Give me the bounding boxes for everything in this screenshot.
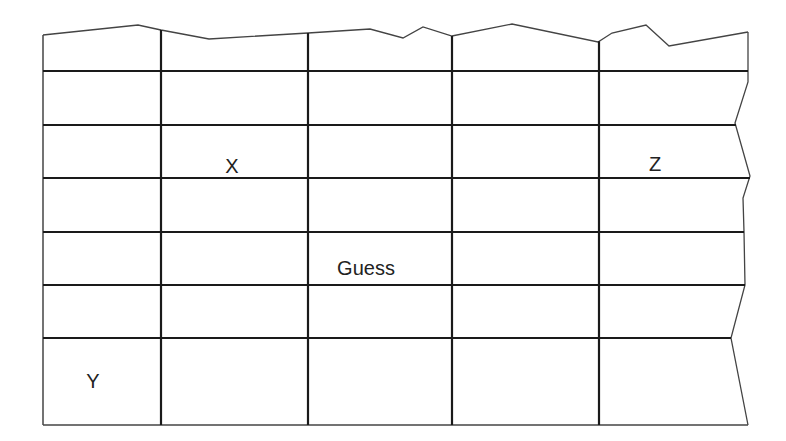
label-x: X [225,155,238,178]
grid-horizontal-lines [43,71,750,338]
label-guess: Guess [337,257,395,280]
right-torn-edge [731,32,750,425]
grid-outline [43,24,750,425]
torn-grid-diagram [0,0,786,441]
label-y: Y [86,370,99,393]
grid-vertical-lines [161,30,599,425]
top-torn-edge [43,24,748,46]
label-z: Z [649,153,661,176]
